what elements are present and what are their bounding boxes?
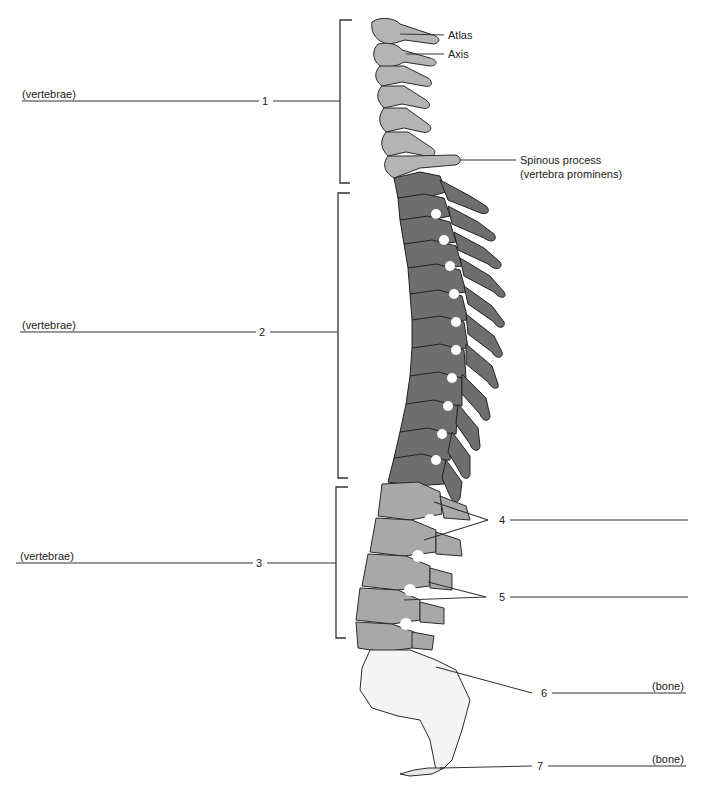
- callout-vertebra-prominens: (vertebra prominens): [520, 168, 622, 180]
- label-number-4: 4: [497, 514, 507, 526]
- label-number-6: 6: [539, 687, 549, 699]
- bracket-lumbar: [336, 487, 348, 638]
- blank-hint-7: (bone): [652, 753, 684, 765]
- callout-axis: Axis: [448, 48, 469, 60]
- left-leader-lines: [16, 101, 340, 563]
- label-number-7: 7: [535, 760, 545, 772]
- cervical-vertebrae: [372, 18, 461, 178]
- blank-hint-2: (vertebrae): [22, 319, 76, 331]
- region-brackets: [336, 20, 352, 638]
- label-number-3: 3: [254, 557, 264, 569]
- label-number-2: 2: [257, 326, 267, 338]
- bracket-cervical: [340, 20, 352, 183]
- spine-diagram: [0, 0, 703, 795]
- callout-spinous-process: Spinous process: [520, 154, 601, 166]
- blank-hint-3: (vertebrae): [20, 550, 74, 562]
- callout-atlas: Atlas: [448, 29, 472, 41]
- sacrum-coccyx: [360, 650, 470, 776]
- bracket-thoracic: [338, 193, 350, 478]
- blank-hint-6: (bone): [652, 680, 684, 692]
- blank-hint-1: (vertebrae): [22, 88, 76, 100]
- label-number-5: 5: [497, 591, 507, 603]
- lumbar-vertebrae: [356, 482, 470, 652]
- label-number-1: 1: [260, 95, 270, 107]
- thoracic-vertebrae: [388, 172, 505, 502]
